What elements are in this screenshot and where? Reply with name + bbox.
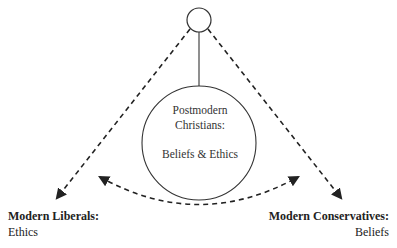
center-subtitle: Beliefs & Ethics	[143, 147, 257, 162]
left-node-title: Modern Liberals:	[8, 208, 99, 224]
right-node-subtitle: Beliefs	[269, 224, 389, 240]
left-node-subtitle: Ethics	[8, 224, 99, 240]
right-node-label: Modern Conservatives: Beliefs	[269, 208, 389, 240]
top-node-circle	[187, 8, 211, 32]
center-title-line2: Christians:	[143, 118, 257, 133]
left-node-label: Modern Liberals: Ethics	[8, 208, 99, 240]
center-title-line1: Postmodern	[143, 103, 257, 118]
center-node-label: Postmodern Christians: Beliefs & Ethics	[143, 103, 257, 162]
right-node-title: Modern Conservatives:	[269, 208, 389, 224]
